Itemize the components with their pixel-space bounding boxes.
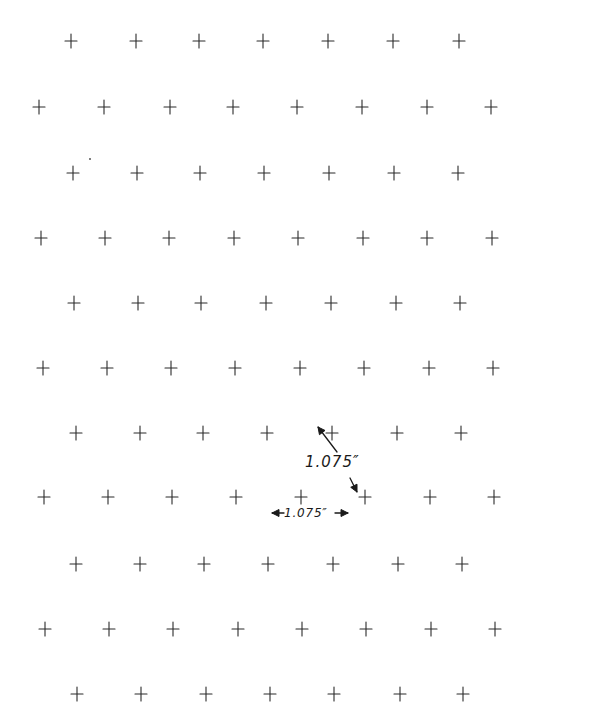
cross-mark-icon bbox=[356, 100, 368, 114]
cross-mark-icon bbox=[33, 100, 45, 114]
cross-mark-icon bbox=[264, 687, 276, 701]
cross-mark-icon bbox=[262, 557, 274, 571]
cross-mark-icon bbox=[260, 296, 272, 310]
cross-mark-icon bbox=[198, 557, 210, 571]
cross-mark-icon bbox=[391, 426, 403, 440]
horizontal-spacing-label: 1.075″ bbox=[284, 507, 328, 519]
cross-mark-icon bbox=[227, 100, 239, 114]
cross-mark-icon bbox=[360, 622, 372, 636]
cross-mark-icon bbox=[39, 622, 51, 636]
cross-mark-icon bbox=[421, 100, 433, 114]
cross-mark-icon bbox=[35, 231, 47, 245]
cross-mark-icon bbox=[134, 557, 146, 571]
cross-mark-icon bbox=[167, 622, 179, 636]
cross-mark-icon bbox=[230, 490, 242, 504]
cross-mark-icon bbox=[358, 361, 370, 375]
cross-mark-icon bbox=[131, 166, 143, 180]
cross-mark-icon bbox=[200, 687, 212, 701]
cross-mark-icon bbox=[485, 100, 497, 114]
cross-mark-icon bbox=[194, 166, 206, 180]
cross-grid-diagram bbox=[0, 0, 602, 727]
cross-mark-icon bbox=[130, 34, 142, 48]
cross-marks-group bbox=[33, 34, 501, 701]
cross-mark-icon bbox=[257, 34, 269, 48]
cross-mark-icon bbox=[37, 361, 49, 375]
cross-mark-icon bbox=[452, 166, 464, 180]
cross-mark-icon bbox=[132, 296, 144, 310]
cross-mark-icon bbox=[292, 231, 304, 245]
cross-mark-icon bbox=[232, 622, 244, 636]
cross-mark-icon bbox=[390, 296, 402, 310]
cross-mark-icon bbox=[454, 296, 466, 310]
cross-mark-icon bbox=[326, 426, 338, 440]
cross-mark-icon bbox=[166, 490, 178, 504]
cross-mark-icon bbox=[103, 622, 115, 636]
cross-mark-icon bbox=[425, 622, 437, 636]
cross-mark-icon bbox=[67, 166, 79, 180]
cross-mark-icon bbox=[193, 34, 205, 48]
dimension-annotations bbox=[272, 427, 357, 517]
cross-mark-icon bbox=[68, 296, 80, 310]
cross-mark-icon bbox=[258, 166, 270, 180]
horizontal-arrow-right-icon bbox=[335, 510, 348, 517]
cross-mark-icon bbox=[327, 557, 339, 571]
cross-mark-icon bbox=[488, 490, 500, 504]
cross-mark-icon bbox=[296, 622, 308, 636]
cross-mark-icon bbox=[195, 296, 207, 310]
cross-mark-icon bbox=[99, 231, 111, 245]
cross-mark-icon bbox=[392, 557, 404, 571]
cross-mark-icon bbox=[455, 426, 467, 440]
cross-mark-icon bbox=[359, 490, 371, 504]
cross-mark-icon bbox=[423, 361, 435, 375]
cross-mark-icon bbox=[453, 34, 465, 48]
cross-mark-icon bbox=[294, 361, 306, 375]
cross-mark-icon bbox=[328, 687, 340, 701]
diagonal-arrow-down-icon bbox=[350, 478, 357, 492]
cross-mark-icon bbox=[486, 231, 498, 245]
cross-mark-icon bbox=[322, 34, 334, 48]
cross-mark-icon bbox=[38, 490, 50, 504]
cross-mark-icon bbox=[65, 34, 77, 48]
cross-mark-icon bbox=[101, 361, 113, 375]
cross-mark-icon bbox=[357, 231, 369, 245]
cross-mark-icon bbox=[102, 490, 114, 504]
cross-mark-icon bbox=[163, 231, 175, 245]
cross-mark-icon bbox=[70, 557, 82, 571]
cross-mark-icon bbox=[228, 231, 240, 245]
cross-mark-icon bbox=[387, 34, 399, 48]
cross-mark-icon bbox=[134, 426, 146, 440]
cross-mark-icon bbox=[229, 361, 241, 375]
cross-mark-icon bbox=[394, 687, 406, 701]
stray-dot-mark bbox=[89, 158, 91, 160]
cross-mark-icon bbox=[165, 361, 177, 375]
cross-mark-icon bbox=[424, 490, 436, 504]
cross-mark-icon bbox=[135, 687, 147, 701]
cross-mark-icon bbox=[421, 231, 433, 245]
cross-mark-icon bbox=[323, 166, 335, 180]
cross-mark-icon bbox=[487, 361, 499, 375]
cross-mark-icon bbox=[261, 426, 273, 440]
cross-mark-icon bbox=[98, 100, 110, 114]
cross-mark-icon bbox=[295, 490, 307, 504]
cross-mark-icon bbox=[197, 426, 209, 440]
horizontal-arrow-left-icon bbox=[272, 510, 284, 517]
diagonal-spacing-label: 1.075″ bbox=[305, 455, 360, 470]
cross-mark-icon bbox=[388, 166, 400, 180]
cross-mark-icon bbox=[456, 557, 468, 571]
cross-mark-icon bbox=[70, 426, 82, 440]
cross-mark-icon bbox=[489, 622, 501, 636]
cross-mark-icon bbox=[457, 687, 469, 701]
cross-mark-icon bbox=[325, 296, 337, 310]
cross-mark-icon bbox=[291, 100, 303, 114]
cross-mark-icon bbox=[71, 687, 83, 701]
cross-mark-icon bbox=[164, 100, 176, 114]
diagonal-arrow-up-icon bbox=[318, 427, 337, 452]
